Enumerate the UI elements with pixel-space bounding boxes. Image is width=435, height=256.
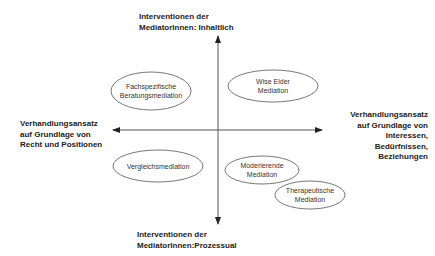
axis-label-left-line: Verhandlungsansatz	[20, 119, 102, 130]
axis-label-right-line: Bedürfnissen,	[332, 142, 428, 153]
ellipse-label-line: Fachspezifische	[120, 82, 182, 91]
ellipse-label-line: Therapeutische	[286, 186, 334, 195]
ellipse-label-line: Mediation	[256, 86, 290, 95]
axis-label-top-line: Interventionen der	[139, 12, 234, 23]
axis-label-top-line: MediatorInnen: Inhaltlich	[139, 23, 234, 34]
axis-label-top: Interventionen der MediatorInnen: Inhalt…	[139, 12, 234, 33]
axis-label-left-line: Recht und Positionen	[20, 140, 102, 151]
axis-label-right: Verhandlungsansatz auf Grundlage von Int…	[332, 110, 428, 163]
axis-label-right-line: Interessen,	[332, 131, 428, 142]
axis-label-bottom-line: MediatorInnen:Prozessual	[137, 241, 237, 252]
ellipse-label-line: Moderierende	[240, 161, 283, 170]
ellipse-label-line: Mediation	[286, 195, 334, 204]
ellipse-label-moderierende: Moderierende Mediation	[240, 161, 283, 179]
axis-label-right-line: auf Grundlage von	[332, 121, 428, 132]
ellipse-label-line: Wise Elder	[256, 77, 290, 86]
ellipse-label-fachspezifische: Fachspezifische Beratungsmediation	[120, 82, 182, 100]
axis-label-left-line: auf Grundlage von	[20, 130, 102, 141]
axis-label-right-line: Beziehungen	[332, 152, 428, 163]
ellipse-label-line: Beratungsmediation	[120, 91, 182, 100]
axis-label-right-line: Verhandlungsansatz	[332, 110, 428, 121]
ellipse-label-therapeutische: Therapeutische Mediation	[286, 186, 334, 204]
axis-label-bottom: Interventionen der MediatorInnen:Prozess…	[137, 230, 237, 251]
axis-label-bottom-line: Interventionen der	[137, 230, 237, 241]
ellipse-label-line: Vergleichsmediation	[127, 162, 190, 171]
ellipse-label-line: Mediation	[240, 170, 283, 179]
axis-label-left: Verhandlungsansatz auf Grundlage von Rec…	[20, 119, 102, 151]
ellipse-label-vergleichs: Vergleichsmediation	[127, 162, 190, 171]
ellipse-label-wise-elder: Wise Elder Mediation	[256, 77, 290, 95]
